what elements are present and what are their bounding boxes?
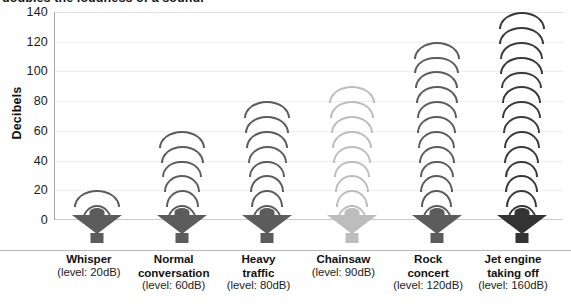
speaker-stem-icon: [515, 233, 528, 243]
bar-column: [55, 12, 140, 220]
bar-column: [479, 12, 564, 220]
speaker-cone-icon: [242, 215, 292, 234]
plot-area: [54, 12, 563, 220]
y-axis-tick-label: 80: [8, 94, 48, 108]
bar-column: [140, 12, 225, 220]
y-axis-tick-label: 20: [8, 183, 48, 197]
x-axis-category-labels: Whisper(level: 20dB)Normalconversation(l…: [54, 252, 563, 306]
speaker-stem-icon: [261, 233, 274, 243]
speaker-cone-icon: [72, 215, 122, 234]
speaker-icon: [240, 208, 294, 242]
speaker-icon: [70, 208, 124, 242]
sound-wave-stack: [310, 86, 395, 220]
bar-column: [225, 12, 310, 220]
sound-wave-stack: [479, 12, 564, 220]
sound-wave-stack: [140, 131, 225, 220]
x-axis-category-label: Jet enginetaking off(level: 160dB): [463, 252, 563, 293]
y-axis-tick-label: 0: [8, 213, 48, 227]
speaker-icon: [410, 208, 464, 242]
category-name-text: Jet engine: [463, 252, 563, 266]
speaker-stem-icon: [176, 233, 189, 243]
y-axis-tick-label: 60: [8, 124, 48, 138]
bar-column: [394, 12, 479, 220]
y-axis-title: Decibels: [10, 68, 24, 158]
category-level-text: (level: 160dB): [463, 279, 563, 293]
y-axis-tick-label: 140: [8, 5, 48, 19]
speaker-icon: [155, 208, 209, 242]
speaker-cone-icon: [157, 215, 207, 234]
speaker-stem-icon: [91, 233, 104, 243]
clipped-caption-text: doubles the loudness of a sound.: [0, 0, 571, 5]
sound-wave-stack: [225, 101, 310, 220]
chart-figure: doubles the loudness of a sound. Decibel…: [0, 0, 571, 306]
speaker-cone-icon: [412, 215, 462, 234]
speaker-icon: [325, 208, 379, 242]
sound-wave-stack: [394, 42, 479, 220]
speaker-cone-icon: [497, 215, 547, 234]
y-axis-tick-label: 120: [8, 35, 48, 49]
speaker-icon: [495, 208, 549, 242]
y-axis-tick-label: 40: [8, 154, 48, 168]
y-axis-tick-label: 100: [8, 64, 48, 78]
chart-area: Decibels 020406080100120140: [0, 8, 571, 253]
speaker-stem-icon: [430, 233, 443, 243]
category-name-text: taking off: [463, 266, 563, 280]
speaker-cone-icon: [327, 215, 377, 234]
speaker-stem-icon: [345, 233, 358, 243]
category-level-text: (level: 80dB): [208, 279, 308, 293]
bar-column: [310, 12, 395, 220]
